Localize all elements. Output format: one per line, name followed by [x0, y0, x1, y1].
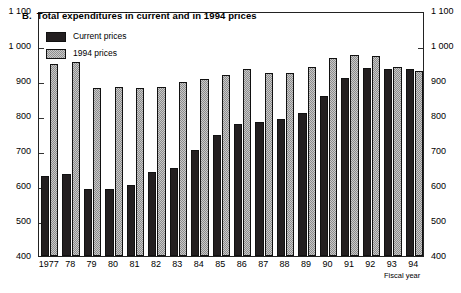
bar-79-current — [84, 189, 92, 256]
y-tick-label-left-900: 900 — [16, 77, 31, 86]
bar-90-constant — [329, 58, 337, 256]
y-tick-label-left-500: 500 — [16, 217, 31, 226]
bar-79-constant — [93, 88, 101, 256]
x-tick-label-89: 89 — [295, 259, 316, 269]
y-tick-label-right-900: 900 — [431, 77, 446, 86]
x-axis-labels: 19777879808182838485868788899091929394 — [38, 259, 424, 273]
y-tick-label-left-800: 800 — [16, 112, 31, 121]
bar-group-88 — [275, 13, 296, 256]
bar-group-90 — [318, 13, 339, 256]
bar-82-constant — [157, 87, 165, 256]
y-axis-left: 1 1001 000900800700600500400 — [0, 0, 34, 293]
y-tick-label-right-400: 400 — [431, 252, 446, 261]
x-tick-label-86: 86 — [231, 259, 252, 269]
bar-group-86 — [232, 13, 253, 256]
x-tick-label-85: 85 — [210, 259, 231, 269]
bar-91-constant — [350, 55, 358, 256]
bar-78-current — [62, 174, 70, 256]
bar-80-constant — [115, 87, 123, 256]
y-tick-label-right-1100: 1 100 — [431, 7, 454, 16]
bar-group-94 — [404, 13, 425, 256]
legend-item-1: Current prices — [46, 30, 126, 43]
bar-group-87 — [253, 13, 274, 256]
bar-80-current — [105, 189, 113, 256]
x-tick-label-1977: 1977 — [38, 259, 59, 269]
bar-81-current — [127, 185, 135, 256]
y-axis-right: 1 1001 000900800700600500400 — [427, 0, 461, 293]
x-tick-label-82: 82 — [145, 259, 166, 269]
legend-swatch-constant — [46, 49, 66, 59]
x-axis-title: Fiscal year — [384, 272, 420, 280]
bar-87-current — [255, 122, 263, 256]
x-tick-label-94: 94 — [403, 259, 424, 269]
expenditures-bar-chart: 1 1001 000900800700600500400 1 1001 0009… — [0, 0, 461, 293]
y-tick-label-right-600: 600 — [431, 182, 446, 191]
y-tick-label-right-500: 500 — [431, 217, 446, 226]
x-tick-label-78: 78 — [59, 259, 80, 269]
bar-85-constant — [222, 75, 230, 256]
x-tick-label-90: 90 — [317, 259, 338, 269]
bar-89-current — [298, 113, 306, 257]
bar-group-89 — [296, 13, 317, 256]
x-tick-label-87: 87 — [252, 259, 273, 269]
bar-91-current — [341, 78, 349, 256]
bar-86-constant — [243, 69, 251, 256]
y-tick-label-left-1000: 1 000 — [8, 42, 31, 51]
bar-93-current — [384, 69, 392, 256]
x-tick-label-84: 84 — [188, 259, 209, 269]
bar-82-current — [148, 172, 156, 256]
bar-94-current — [406, 69, 414, 256]
bar-83-constant — [179, 82, 187, 256]
bar-group-92 — [361, 13, 382, 256]
bar-group-82 — [146, 13, 167, 256]
bar-92-constant — [372, 56, 380, 256]
bar-group-91 — [339, 13, 360, 256]
panel-letter: B. — [22, 10, 32, 21]
y-tick-label-left-400: 400 — [16, 252, 31, 261]
bar-89-constant — [308, 67, 316, 256]
x-tick-label-80: 80 — [102, 259, 123, 269]
y-tick-label-right-700: 700 — [431, 147, 446, 156]
legend-label: Current prices — [73, 32, 126, 41]
x-tick-label-93: 93 — [381, 259, 402, 269]
bar-84-constant — [200, 79, 208, 256]
bar-93-constant — [393, 67, 401, 256]
chart-title: B.Total expenditures in current and in 1… — [22, 10, 257, 21]
bar-88-constant — [286, 73, 294, 256]
bar-group-84 — [189, 13, 210, 256]
bar-group-83 — [168, 13, 189, 256]
x-tick-label-91: 91 — [338, 259, 359, 269]
bar-1977-constant — [50, 64, 58, 257]
bar-83-current — [170, 168, 178, 256]
bar-group-93 — [382, 13, 403, 256]
bar-87-constant — [265, 73, 273, 256]
bar-81-constant — [136, 88, 144, 256]
legend-swatch-current — [46, 32, 66, 42]
x-tick-label-88: 88 — [274, 259, 295, 269]
y-tick-label-right-1000: 1 000 — [431, 42, 454, 51]
bar-90-current — [320, 96, 328, 256]
bar-94-constant — [415, 71, 423, 257]
bar-92-current — [363, 68, 371, 256]
chart-title-text: Total expenditures in current and in 199… — [37, 10, 257, 21]
x-tick-label-83: 83 — [167, 259, 188, 269]
bar-group-81 — [125, 13, 146, 256]
x-tick-label-79: 79 — [81, 259, 102, 269]
chart-legend: Current prices1994 prices — [46, 30, 126, 64]
legend-item-2: 1994 prices — [46, 47, 126, 60]
bar-84-current — [191, 150, 199, 256]
y-tick-label-left-700: 700 — [16, 147, 31, 156]
bar-85-current — [213, 135, 221, 256]
x-tick-label-81: 81 — [124, 259, 145, 269]
y-tick-label-right-800: 800 — [431, 112, 446, 121]
bar-1977-current — [41, 176, 49, 256]
bar-86-current — [234, 124, 242, 256]
y-tick-label-left-600: 600 — [16, 182, 31, 191]
bar-group-85 — [211, 13, 232, 256]
legend-label: 1994 prices — [73, 49, 117, 58]
x-tick-label-92: 92 — [360, 259, 381, 269]
bar-78-constant — [72, 62, 80, 256]
bar-88-current — [277, 119, 285, 256]
